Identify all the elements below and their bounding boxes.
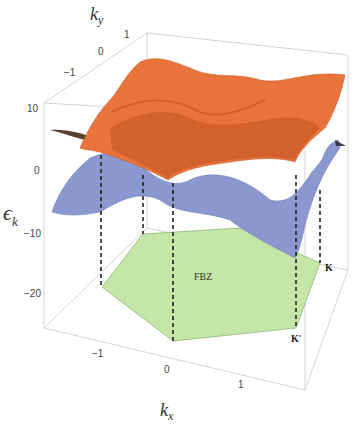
ky-tick-label: 1 (124, 29, 130, 40)
z-tick-label: 10 (27, 103, 39, 114)
kx-axis-label: kx (160, 400, 174, 423)
kx-tick-label: −1 (92, 348, 104, 359)
kx-axis: −1 0 1 (92, 348, 244, 390)
box-right-bottom (305, 270, 348, 390)
point-K-label: K (325, 262, 333, 273)
z-tick-label: −10 (24, 228, 41, 239)
point-Kp-label: K′ (291, 333, 302, 344)
kx-tick-label: 1 (238, 379, 244, 390)
kx-tick-label: 0 (164, 364, 170, 375)
ky-tick-label: −1 (64, 67, 76, 78)
ky-tick-label: 0 (98, 46, 104, 57)
z-axis: 10 0 −10 −20 (24, 103, 41, 299)
z-tick-label: −20 (24, 288, 41, 299)
band-structure-plot: FBZ K K′ 10 0 −10 −20 −1 0 1 −1 0 1 ky k… (0, 0, 359, 425)
energy-axis-label: ϵk (3, 200, 18, 229)
ky-axis: −1 0 1 (64, 29, 130, 78)
z-tick-label: 0 (34, 165, 40, 176)
ky-axis-label: ky (90, 4, 104, 27)
fbz-label: FBZ (194, 271, 212, 282)
